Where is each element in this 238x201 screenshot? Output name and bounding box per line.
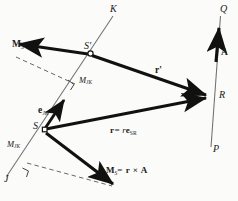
label-point-j: J <box>4 174 8 184</box>
equation-r-definition: r= reSR <box>110 126 137 136</box>
node-s-prime <box>88 51 93 56</box>
label-vector-m-s-prime: MS' <box>12 40 25 51</box>
eq-r-mid: = r <box>114 125 126 135</box>
label-m-jk-upper: MJK <box>79 76 92 86</box>
label-m-s-prime-base: M <box>12 39 21 49</box>
label-point-s: S <box>33 121 38 131</box>
eq-m-s-base: M <box>106 165 115 175</box>
label-point-s-prime: S' <box>84 41 91 51</box>
label-point-p: P <box>213 144 219 154</box>
label-point-q: Q <box>220 4 227 14</box>
label-m-s-prime-sub: S' <box>21 44 25 50</box>
label-vector-e-jk: eJK <box>38 106 49 117</box>
label-e-jk-sub: JK <box>42 110 49 116</box>
eq-r-rhs-sub: SR <box>130 130 137 136</box>
vector-r-prime <box>92 56 206 96</box>
equation-moment-about-s: MS= r × A <box>106 166 148 176</box>
label-m-jk-upper-sub: JK <box>86 79 92 85</box>
label-point-r: R <box>219 90 225 100</box>
dashed-upper <box>16 57 75 84</box>
right-angle-lower <box>23 168 29 177</box>
label-m-jk-lower: MJK <box>7 140 20 150</box>
label-m-jk-lower-sub: JK <box>14 143 20 149</box>
label-vector-a: A <box>221 48 228 58</box>
node-s <box>42 127 47 132</box>
eq-m-s-rhs: = r × A <box>117 165 147 175</box>
label-point-k: K <box>110 4 117 14</box>
vector-m-s-prime <box>19 44 88 54</box>
vector-m-s <box>46 133 113 184</box>
vector-a <box>216 28 219 62</box>
label-vector-r-prime: r' <box>155 66 162 76</box>
figure-canvas: K J Q P S S' R A r' MS' MJK MJK eJK r= r… <box>0 0 238 201</box>
